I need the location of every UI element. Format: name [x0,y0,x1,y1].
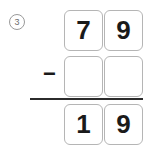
minuend-row: 7 9 [64,10,144,51]
answer-tens-cell: 1 [64,104,103,145]
answer-row: 1 9 [64,104,144,145]
subtraction-problem: 3 7 9 1 9 − [0,0,147,149]
minuend-tens-cell: 7 [64,10,103,51]
vertical-subtraction-grid: 7 9 1 9 [64,10,144,145]
minuend-ones-cell: 9 [104,10,143,51]
answer-ones-cell: 9 [104,104,143,145]
minus-icon: − [42,66,57,82]
answer-divider-rule [30,98,143,100]
subtrahend-tens-input[interactable] [64,56,103,97]
problem-number-badge: 3 [9,14,25,30]
subtrahend-row [64,56,144,97]
subtrahend-ones-input[interactable] [104,56,143,97]
